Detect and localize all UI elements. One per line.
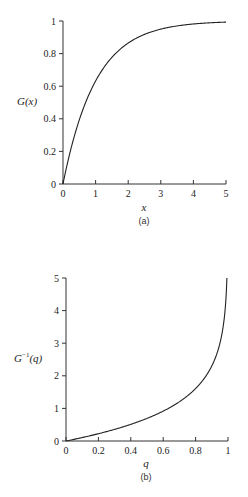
- x-tick-label: 0.2: [92, 445, 105, 456]
- y-ticks: 012345: [54, 273, 66, 447]
- axes-b: [66, 278, 228, 441]
- x-tick-label: 5: [224, 188, 229, 199]
- panel-caption-b: (b): [141, 472, 152, 482]
- x-ticks: 012345: [61, 180, 229, 199]
- y-axis-label: G(x): [17, 95, 37, 108]
- y-tick-label: 3: [54, 338, 59, 349]
- y-tick-label: 1: [51, 16, 56, 27]
- x-tick-label: 1: [93, 188, 98, 199]
- y-tick-label: 0.8: [44, 48, 57, 59]
- y-tick-label: 5: [54, 273, 59, 284]
- x-tick-label: 1: [226, 445, 231, 456]
- x-axis-label: x: [141, 201, 147, 213]
- x-tick-label: 4: [191, 188, 196, 199]
- y-ticks: 00.20.40.60.81: [44, 16, 64, 190]
- y-tick-label: 0: [51, 179, 56, 190]
- y-tick-label: 0.6: [44, 81, 57, 92]
- x-axis-label: q: [143, 457, 149, 469]
- x-tick-label: 0: [64, 445, 69, 456]
- x-tick-label: 2: [126, 188, 131, 199]
- y-tick-label: 0.4: [44, 113, 57, 124]
- x-ticks: 00.20.40.60.81: [64, 437, 231, 456]
- x-tick-label: 0.6: [157, 445, 170, 456]
- y-tick-label: 0.2: [44, 146, 57, 157]
- y-tick-label: 2: [54, 370, 59, 381]
- panel-caption-a: (a): [139, 216, 150, 226]
- curve-G-inverse-q: [66, 278, 227, 441]
- y-tick-label: 4: [54, 305, 59, 316]
- curve-G-x: [63, 22, 226, 184]
- x-tick-label: 0: [61, 188, 66, 199]
- x-tick-label: 0.4: [125, 445, 138, 456]
- y-axis-label: G−1(q): [14, 351, 43, 365]
- chart-panel-a: 00.20.40.60.81 012345 G(x) x (a): [0, 0, 248, 250]
- y-tick-label: 1: [54, 403, 59, 414]
- x-tick-label: 0.8: [189, 445, 202, 456]
- y-tick-label: 0: [54, 436, 59, 447]
- x-tick-label: 3: [158, 188, 163, 199]
- axes-a: [63, 21, 226, 184]
